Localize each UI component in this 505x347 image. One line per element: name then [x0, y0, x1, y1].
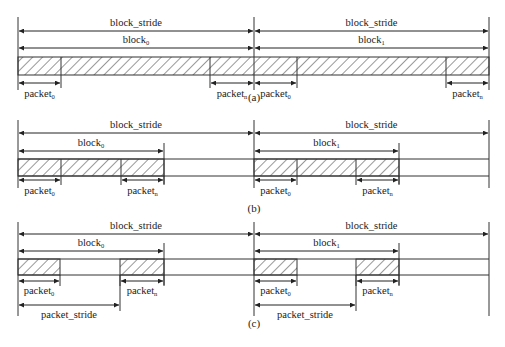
block-stride-label: block_stride [110, 17, 162, 28]
panel-caption: (c) [248, 317, 261, 330]
block-label: block0 [78, 237, 105, 249]
panel-a: block_strideblock_strideblock0packet0pac… [18, 17, 489, 104]
packet-label: packet0 [24, 88, 55, 100]
block-stride-label: block_stride [346, 17, 398, 28]
block-stride-label: block_stride [110, 220, 162, 231]
packet-label: packet0 [24, 285, 55, 297]
panel-b: block_strideblock_strideblock0packet0pac… [18, 119, 489, 215]
block-label: block1 [313, 137, 340, 149]
packet-label: packetn [362, 185, 393, 197]
packet-fill [120, 259, 164, 275]
block-stride-label: block_stride [346, 119, 398, 130]
packet-fill [356, 259, 399, 275]
memory-bar [18, 57, 489, 75]
panel-caption: (b) [248, 202, 261, 215]
packet-fill [18, 259, 60, 275]
packet-label: packetn [127, 285, 158, 297]
block-0: block0packet0packetnpacket_stride [18, 237, 164, 320]
packet-stride-label: packet_stride [277, 309, 333, 320]
stride-layout-diagram: block_strideblock_strideblock0packet0pac… [0, 0, 505, 347]
block-fill [18, 159, 164, 176]
block-1: block1packet0packetn [254, 137, 399, 197]
packet-label: packetn [127, 185, 158, 197]
packet-label: packet0 [260, 285, 291, 297]
panel-c: block_strideblock_strideblock0packet0pac… [18, 220, 489, 330]
block-label: block1 [358, 34, 385, 46]
panel-caption: (a) [248, 91, 261, 104]
block-stride-label: block_stride [110, 119, 162, 130]
block-label: block0 [78, 137, 105, 149]
packet-label: packet0 [260, 88, 291, 100]
block-1: block1packet0packetnpacket_stride [254, 237, 399, 320]
block-label: block0 [123, 34, 150, 46]
packet-fill [254, 259, 297, 275]
packet-label: packetn [362, 285, 393, 297]
block-label: block1 [313, 237, 340, 249]
block-fill [254, 159, 399, 176]
block-stride-label: block_stride [346, 220, 398, 231]
block-0: block0packet0packetn [18, 137, 164, 197]
packet-label: packetn [217, 88, 248, 100]
packet-label: packet0 [260, 185, 291, 197]
packet-label: packet0 [24, 185, 55, 197]
packet-stride-label: packet_stride [41, 309, 97, 320]
packet-label: packetn [452, 88, 483, 100]
